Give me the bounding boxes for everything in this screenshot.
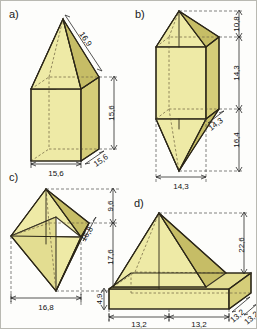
figure-d-dim-slab-label: 4,9 — [95, 293, 104, 305]
figure-b-prism-front — [156, 47, 206, 119]
figure-d: 22,6 4,9 13,2 13,2 13,2 13,2 d) — [95, 197, 257, 329]
figure-d-dim-width-2-label: 13,2 — [191, 320, 207, 329]
figure-b-prism-right — [206, 37, 219, 119]
figure-a-front-face — [31, 89, 81, 161]
figure-a: 16,9 15,6 15,6 15,6 a) — [9, 8, 119, 178]
figure-d-dim-height-label: 22,6 — [237, 237, 246, 253]
figure-b: 10,8 14,3 16,4 14,3 14,3 b) — [135, 8, 244, 191]
figure-a-right-face — [81, 77, 99, 161]
figure-d-slab-front — [109, 289, 229, 309]
figure-c-letter: c) — [9, 171, 18, 183]
figure-d-letter: d) — [134, 197, 144, 209]
figure-c-dim-width-label: 16,8 — [38, 303, 54, 312]
figure-a-dim-height-label: 15,6 — [107, 105, 116, 121]
geometry-worksheet-figure: 16,9 15,6 15,6 15,6 a) — [0, 0, 257, 329]
figure-a-letter: a) — [9, 8, 19, 20]
figure-d-dim-depth-2-label: 13,2 — [243, 309, 257, 326]
figure-b-dim-middle-label: 14,3 — [232, 65, 241, 81]
figure-b-dim-bottom-label: 16,4 — [232, 132, 241, 148]
figure-c-dim-top-label: 9,6 — [106, 200, 115, 212]
figure-b-letter: b) — [135, 8, 145, 20]
figure-b-dim-top-label: 10,8 — [232, 16, 241, 32]
figure-a-dim-depth-label: 15,6 — [92, 152, 110, 169]
figure-a-dim-width-label: 15,6 — [48, 169, 64, 178]
figure-c-dim-lower-label: 17,6 — [106, 249, 115, 265]
figure-b-dim-width-label: 14,3 — [173, 182, 189, 191]
figure-d-dim-width-1-label: 13,2 — [131, 320, 147, 329]
figure-b-bottom-pyramid-front — [156, 119, 206, 171]
